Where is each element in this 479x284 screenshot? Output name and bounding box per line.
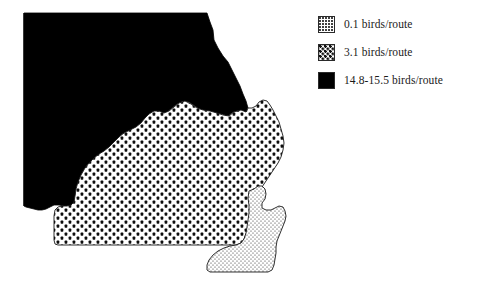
legend-label-1: 3.1 birds/route	[344, 45, 413, 59]
legend-label-0: 0.1 birds/route	[344, 17, 413, 31]
solid-black-swatch	[318, 72, 335, 89]
light-stipple-swatch	[318, 16, 335, 33]
medium-dot-swatch	[318, 44, 335, 61]
legend: 0.1 birds/route 3.1 birds/route 14.8-15.…	[318, 10, 476, 94]
legend-item-0: 0.1 birds/route	[318, 10, 476, 38]
legend-item-2: 14.8-15.5 birds/route	[318, 66, 476, 94]
missouri-choropleth-map	[0, 0, 310, 284]
figure-root: 0.1 birds/route 3.1 birds/route 14.8-15.…	[0, 0, 479, 284]
legend-item-1: 3.1 birds/route	[318, 38, 476, 66]
legend-label-2: 14.8-15.5 birds/route	[344, 73, 443, 87]
map-panel	[0, 0, 310, 284]
